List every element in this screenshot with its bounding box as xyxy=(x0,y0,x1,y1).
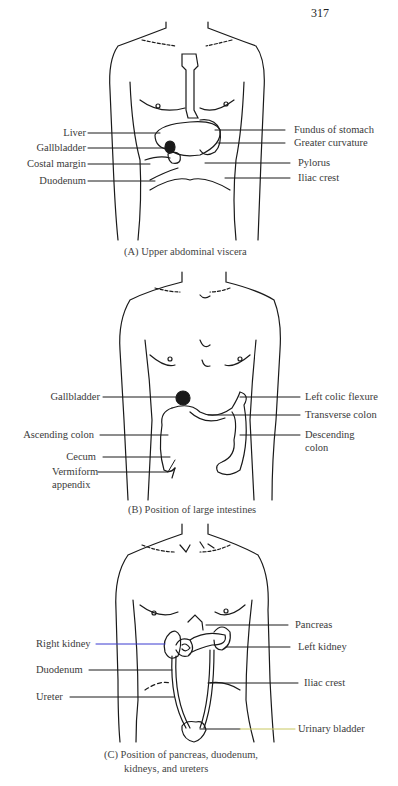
label-iliac-crest-c: Iliac crest xyxy=(304,677,345,689)
label-left-kidney: Left kidney xyxy=(298,641,347,653)
leaders-c xyxy=(70,625,298,729)
label-gallbladder: Gallbladder xyxy=(36,142,86,154)
label-gallbladder-b: Gallbladder xyxy=(50,391,100,403)
label-right-kidney: Right kidney xyxy=(36,638,91,650)
label-pancreas: Pancreas xyxy=(295,619,332,631)
label-fundus-of-stomach: Fundus of stomach xyxy=(294,124,374,136)
caption-b: (B) Position of large intestines xyxy=(128,503,256,516)
large-intestine-b xyxy=(160,391,246,478)
label-vermiform: Vermiform xyxy=(52,466,98,478)
label-ureter: Ureter xyxy=(36,691,63,703)
torso-outline-a xyxy=(110,22,265,240)
organs-a xyxy=(145,54,220,180)
label-left-colic-flexure: Left colic flexure xyxy=(305,391,378,403)
label-urinary-bladder: Urinary bladder xyxy=(298,723,365,735)
label-ascending-colon: Ascending colon xyxy=(23,429,94,441)
label-colon: colon xyxy=(305,442,328,454)
label-iliac-crest: Iliac crest xyxy=(298,172,339,184)
caption-a: (A) Upper abdominal viscera xyxy=(124,245,247,258)
label-duodenum: Duodenum xyxy=(39,175,86,187)
torso-outline-c xyxy=(116,524,274,742)
label-greater-curvature: Greater curvature xyxy=(294,137,368,149)
caption-c-line1: (C) Position of pancreas, duodenum, xyxy=(104,748,258,761)
label-descending: Descending xyxy=(305,429,355,441)
label-appendix: appendix xyxy=(52,479,91,491)
label-cecum: Cecum xyxy=(66,451,96,463)
label-costal-margin: Costal margin xyxy=(27,158,86,170)
caption-c-line2: kidneys, and ureters xyxy=(124,762,208,775)
label-duodenum-c: Duodenum xyxy=(36,664,83,676)
label-pylorus: Pylorus xyxy=(298,157,330,169)
kidneys-c xyxy=(164,615,230,742)
torso-outline-b xyxy=(120,272,281,500)
leaders-b xyxy=(98,397,300,472)
label-liver: Liver xyxy=(63,127,86,139)
label-transverse-colon: Transverse colon xyxy=(305,409,377,421)
